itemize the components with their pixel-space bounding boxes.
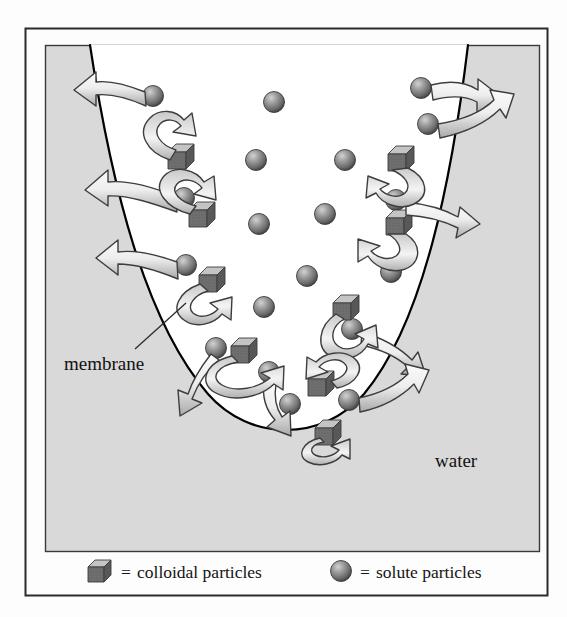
membrane-label: membrane	[64, 353, 144, 374]
solute-particle	[176, 255, 197, 276]
membrane-diagram-svg: membrane water = colloidal particles = s…	[0, 0, 567, 617]
sphere-icon	[331, 561, 352, 582]
solute-particle	[264, 92, 285, 113]
solute-particle	[418, 114, 439, 135]
cube-icon	[88, 560, 111, 582]
solute-particle	[411, 78, 432, 99]
water-label: water	[435, 450, 478, 471]
solute-particle	[246, 150, 267, 171]
solute-particle	[315, 204, 336, 225]
colloidal-particle	[388, 146, 414, 171]
solute-particle	[335, 150, 356, 171]
legend-label-colloidal: colloidal particles	[137, 562, 262, 582]
solute-particle	[249, 214, 270, 235]
legend-label-solute: solute particles	[376, 562, 482, 582]
solute-particle	[297, 266, 318, 287]
legend-equals-solute: =	[360, 562, 370, 582]
legend-equals-colloidal: =	[121, 562, 131, 582]
figure-root: membrane water = colloidal particles = s…	[0, 0, 567, 617]
solute-particle	[206, 338, 227, 359]
solute-particle	[254, 297, 275, 318]
solute-particle	[339, 390, 360, 411]
